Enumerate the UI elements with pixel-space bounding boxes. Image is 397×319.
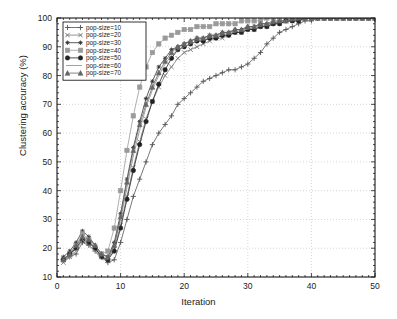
figure: 01020304050102030405060708090100pop-size… xyxy=(0,0,397,319)
x-tick-label: 0 xyxy=(55,281,60,291)
y-tick-label: 20 xyxy=(43,243,53,253)
y-tick-label: 30 xyxy=(43,214,53,224)
x-tick-label: 40 xyxy=(307,281,317,291)
x-tick-label: 30 xyxy=(243,281,253,291)
x-tick-label: 20 xyxy=(179,281,189,291)
x-axis-label: Iteration xyxy=(0,296,397,307)
y-tick-label: 70 xyxy=(43,99,53,109)
y-tick-label: 40 xyxy=(43,186,53,196)
legend-label: pop-size=70 xyxy=(86,69,121,77)
legend: pop-size=10pop-size=20pop-size=30pop-siz… xyxy=(63,22,146,80)
y-tick-label: 60 xyxy=(43,128,53,138)
y-tick-label: 10 xyxy=(43,272,53,282)
y-axis-label: Clustering accuracy (%) xyxy=(17,26,28,186)
y-tick-label: 100 xyxy=(38,13,52,23)
chart-canvas: 01020304050102030405060708090100pop-size… xyxy=(0,0,397,319)
y-tick-label: 80 xyxy=(43,71,53,81)
x-tick-label: 10 xyxy=(116,281,126,291)
x-tick-label: 50 xyxy=(370,281,380,291)
y-tick-label: 50 xyxy=(43,157,53,167)
y-tick-label: 90 xyxy=(43,42,53,52)
